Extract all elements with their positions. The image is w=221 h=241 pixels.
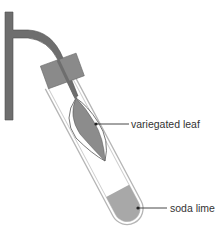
soda-lime-pointer-dot	[136, 206, 139, 209]
label-variegated-leaf: variegated leaf	[131, 118, 200, 130]
label-soda-lime: soda lime	[170, 202, 215, 214]
leaf-pointer-dot	[94, 122, 97, 125]
experiment-diagram: variegated leaf soda lime	[0, 0, 221, 241]
